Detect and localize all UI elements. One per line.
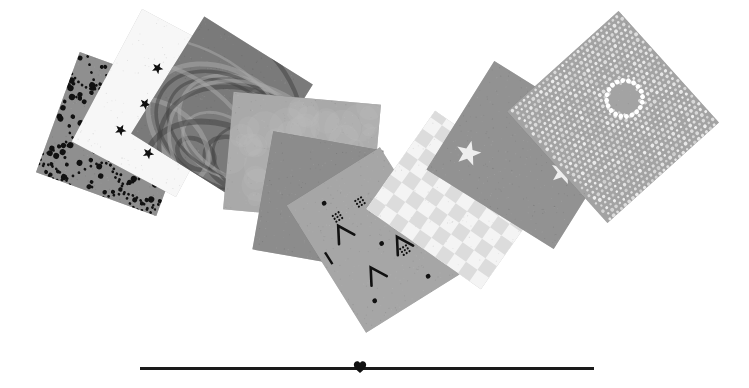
swatch-fan-illustration — [0, 0, 749, 388]
horizontal-divider — [140, 367, 594, 370]
heart-icon — [353, 360, 367, 374]
